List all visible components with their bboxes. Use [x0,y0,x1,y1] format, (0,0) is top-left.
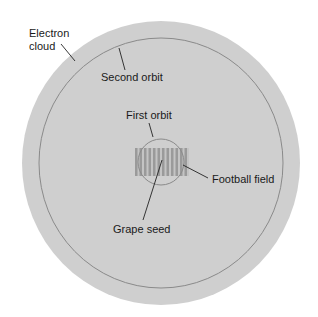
first-orbit-label: First orbit [126,109,172,121]
electron-cloud-label-line1: Electron [29,27,69,39]
grape-seed-label: Grape seed [113,223,170,235]
second-orbit-label: Second orbit [101,71,163,83]
football-field-label: Football field [212,173,274,185]
electron-cloud-label-line2: cloud [29,40,55,52]
football-field-shape [135,148,189,176]
atom-scale-diagram: Electron cloud Second orbit First orbit … [0,0,318,317]
